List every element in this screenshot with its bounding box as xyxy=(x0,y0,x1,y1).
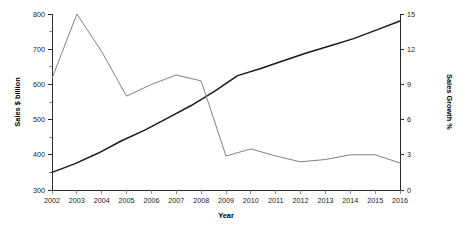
right-axis-tick-label: 15 xyxy=(407,10,415,19)
bottom-axis-tick-label: 2009 xyxy=(218,196,234,205)
bottom-axis-tick-label: 2004 xyxy=(94,196,110,205)
bottom-axis-tick-label: 2002 xyxy=(44,196,60,205)
bottom-axis-tick-label: 2005 xyxy=(119,196,135,205)
left-axis-tick-label: 800 xyxy=(33,10,45,19)
series-line-sales-growth xyxy=(52,14,400,163)
bottom-axis-tick-label: 2015 xyxy=(367,196,383,205)
bottom-axis-tick-label: 2007 xyxy=(168,196,184,205)
right-axis-tick-label: 6 xyxy=(407,115,411,124)
bottom-axis-tick-label: 2013 xyxy=(317,196,333,205)
chart-canvas: 800700600500400300 15129630 200220032004… xyxy=(0,0,467,230)
bottom-axis-tick-label: 2010 xyxy=(243,196,259,205)
left-axis-tick-label: 500 xyxy=(33,115,45,124)
left-axis-title: Sales $ billion xyxy=(13,77,22,127)
left-axis-tick-label: 400 xyxy=(33,150,45,159)
bottom-axis-tick-label: 2011 xyxy=(268,196,283,205)
bottom-axis-tick-label: 2008 xyxy=(193,196,209,205)
left-axis-tick-label: 300 xyxy=(33,186,45,195)
bottom-axis-tick-label: 2012 xyxy=(293,196,309,205)
bottom-axis-tick-label: 2006 xyxy=(143,196,159,205)
left-axis: 800700600500400300 xyxy=(33,10,52,195)
bottom-axis-tick-label: 2003 xyxy=(69,196,85,205)
right-axis: 15129630 xyxy=(400,10,415,195)
right-axis-title: Sales Growth % xyxy=(445,74,454,130)
bottom-axis-tick-label: 2014 xyxy=(342,196,358,205)
right-axis-tick-label: 3 xyxy=(407,150,411,159)
right-axis-tick-label: 9 xyxy=(407,80,411,89)
bottom-axis-tick-label: 2016 xyxy=(392,196,408,205)
series-line-sales-billion xyxy=(52,21,400,172)
bottom-axis: 2002200320042005200620072008200920102011… xyxy=(44,190,408,205)
bottom-axis-title: Year xyxy=(218,211,234,220)
left-axis-tick-label: 700 xyxy=(33,45,45,54)
dual-axis-line-chart: 800700600500400300 15129630 200220032004… xyxy=(0,0,467,230)
left-axis-tick-label: 600 xyxy=(33,80,45,89)
right-axis-tick-label: 0 xyxy=(407,186,411,195)
right-axis-tick-label: 12 xyxy=(407,45,415,54)
series-lines xyxy=(52,14,400,172)
